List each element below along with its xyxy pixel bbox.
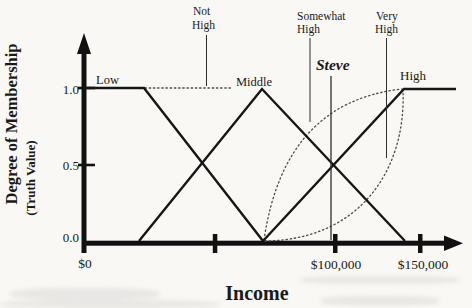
very-high-label-line2: High: [375, 23, 398, 36]
y-tick-label-0_5: 0.5: [63, 158, 79, 173]
fuzzy-membership-chart: Degree of Membership (Truth Value) 1.0 0…: [0, 0, 472, 308]
middle-membership-line: [139, 89, 405, 241]
x-tick-label-0: $0: [78, 256, 92, 271]
steve-label: Steve: [316, 56, 350, 73]
y-axis: [77, 33, 95, 253]
y-axis-line: [82, 50, 87, 253]
not-high-label-line1: Not: [193, 5, 211, 17]
x-axis: [82, 234, 463, 253]
x-axis-arrowhead-icon: [444, 236, 463, 252]
x-tick-150k: [418, 234, 423, 253]
x-tick-label-150k: $150,000: [398, 257, 449, 272]
not-high-label-line2: High: [192, 19, 215, 32]
x-tick-50k: [213, 234, 218, 253]
y-tick-label-0_0: 0.0: [63, 230, 79, 245]
low-label: Low: [96, 73, 119, 87]
y-tick-label-1_0: 1.0: [63, 82, 79, 97]
high-label: High: [400, 68, 427, 83]
x-tick-100k: [333, 234, 338, 253]
very-high-label-line1: Very: [376, 10, 398, 23]
x-tick-label-100k: $100,000: [311, 257, 362, 272]
low-membership-line: [84, 88, 263, 241]
high-membership-line: [263, 89, 456, 241]
y-axis-subtitle: (Truth Value): [23, 140, 38, 215]
somewhat-high-label-line2: High: [297, 23, 320, 36]
y-tick-0_5: [78, 164, 95, 167]
y-axis-title: Degree of Membership: [2, 44, 21, 205]
x-axis-title: Income: [225, 282, 288, 304]
y-axis-arrowhead-icon: [77, 33, 91, 54]
somewhat-high-label-line1: Somewhat: [297, 10, 346, 22]
middle-label: Middle: [236, 75, 273, 89]
